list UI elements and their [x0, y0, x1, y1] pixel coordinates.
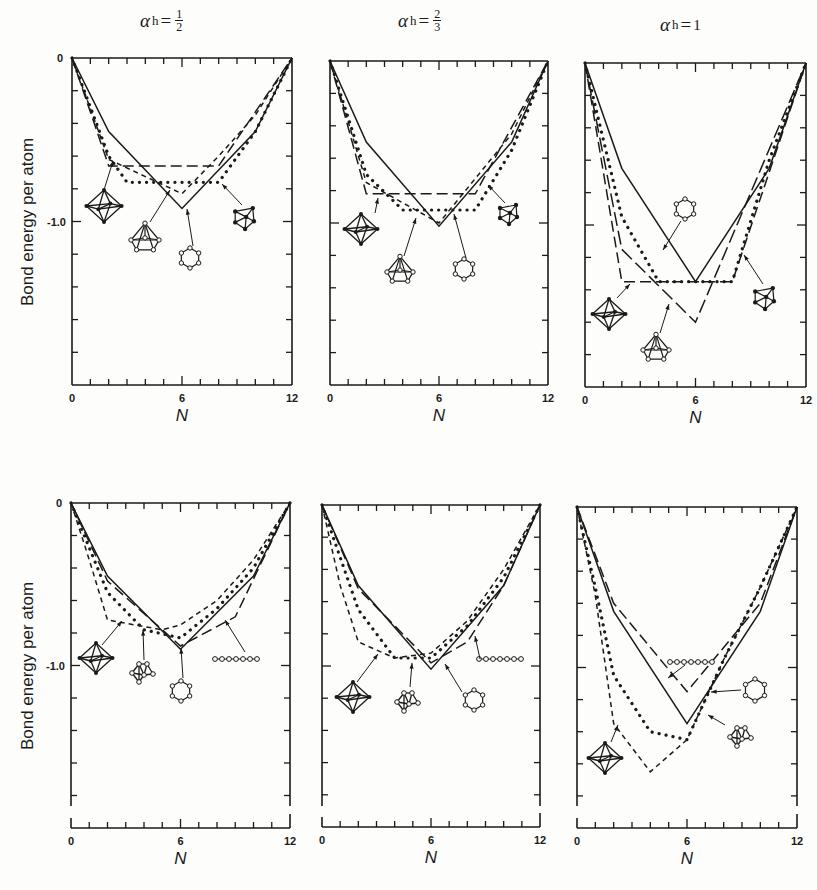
x-tick-label: 12 [286, 392, 298, 404]
x-axis-label: N [681, 849, 694, 868]
annotation-arrow [454, 214, 466, 258]
series-octahedron [585, 63, 806, 282]
series-chain [322, 505, 540, 663]
arrow-head-icon [453, 214, 457, 220]
linear-chain-icon [213, 657, 260, 662]
x-tick-label: 0 [327, 392, 333, 404]
annotation-arrow [150, 190, 170, 222]
hexagon-ring-icon [170, 679, 192, 703]
x-axis-label: N [174, 849, 187, 868]
arrow-head-icon [663, 244, 668, 250]
octahedron-icon [587, 741, 624, 775]
x-tick-label: 0 [574, 835, 580, 847]
octahedron-icon [84, 188, 123, 224]
y-tick-label-minus-one: -1.0 [47, 216, 66, 228]
series-bicapped-cluster [577, 507, 797, 740]
chart-panel-bottom-right: 0612N [574, 507, 803, 868]
series-octahedron [71, 503, 290, 630]
hexagon-ring-icon [453, 257, 475, 281]
hexagon-ring-icon [463, 688, 485, 712]
bicapped-cluster-icon [130, 662, 156, 685]
pentagonal-pyramid-icon [385, 254, 415, 283]
arrow-head-icon [225, 620, 230, 626]
chart-panel-top-left: 0612N0-1.0 [47, 52, 298, 425]
x-axis-label: N [433, 406, 446, 425]
chart-panel-top-right: 0612N [582, 63, 812, 427]
series-ring-hexagon- [585, 63, 806, 282]
arrow-head-icon [412, 218, 416, 224]
x-axis-label: N [176, 406, 189, 425]
x-tick-label: 6 [428, 834, 434, 846]
annotation-arrow [404, 218, 416, 256]
capped-cluster-icon [233, 206, 256, 231]
x-tick-label: 12 [284, 835, 296, 847]
linear-chain-icon [668, 660, 715, 665]
series-chain [71, 503, 290, 646]
arrow-head-icon [445, 664, 450, 670]
x-tick-label: 6 [692, 394, 698, 406]
panel-top-left: 0612N0-1.00612N0612N0612N0-1.00612N0612N [0, 0, 817, 890]
arrow-head-icon [711, 690, 717, 694]
x-tick-label: 12 [791, 835, 803, 847]
x-tick-label: 6 [684, 835, 690, 847]
hexagon-ring-icon [743, 677, 766, 703]
capped-cluster-icon [753, 286, 776, 311]
x-tick-label: 0 [68, 835, 74, 847]
bicapped-cluster-icon [728, 726, 754, 749]
capped-cluster-icon [498, 203, 519, 226]
x-axis-label: N [425, 848, 438, 867]
x-tick-label: 0 [582, 394, 588, 406]
arrow-head-icon [744, 255, 749, 261]
y-tick-label-minus-one: -1.0 [46, 660, 65, 672]
x-tick-label: 12 [534, 834, 546, 846]
x-tick-label: 6 [436, 392, 442, 404]
octahedron-icon [335, 680, 372, 714]
series-octahedron [577, 507, 797, 772]
arrow-head-icon [186, 209, 190, 215]
octahedron-icon [78, 641, 115, 675]
hexagon-ring-icon [674, 197, 696, 221]
series-octahedron [330, 61, 548, 194]
arrow-head-icon [708, 715, 714, 720]
series-pentagonal-pyramid [330, 61, 548, 223]
arrow-head-icon [614, 725, 618, 731]
series-octahedron [72, 58, 292, 166]
x-tick-label: 6 [177, 835, 183, 847]
annotation-arrow [225, 620, 245, 652]
pentagonal-pyramid-icon [129, 221, 161, 252]
series-pentagonal-pyramid [585, 63, 806, 322]
arrow-head-icon [665, 304, 669, 310]
series-capped-pyramid [585, 63, 806, 282]
pentagonal-pyramid-icon [641, 332, 671, 361]
chart-panel-bottom-left: 0612N0-1.0 [46, 497, 296, 868]
bicapped-cluster-icon [395, 691, 421, 714]
x-tick-label: 0 [69, 392, 75, 404]
x-tick-label: 6 [179, 392, 185, 404]
x-tick-label: 0 [319, 834, 325, 846]
linear-chain-icon [477, 657, 524, 662]
x-axis-label: N [689, 408, 702, 427]
y-tick-label-zero: 0 [56, 497, 62, 509]
x-tick-label: 12 [800, 394, 812, 406]
chart-panel-bottom-middle: 0612N [319, 505, 546, 867]
series-ring-hexagon- [71, 503, 290, 649]
y-tick-label-zero: 0 [57, 52, 63, 64]
series-ring-hexagon- [322, 505, 540, 669]
x-tick-label: 12 [542, 392, 554, 404]
series-capped-pyramid [72, 58, 292, 182]
octahedron-icon [343, 212, 380, 246]
octahedron-icon [591, 297, 628, 331]
hexagon-ring-icon [179, 246, 201, 270]
